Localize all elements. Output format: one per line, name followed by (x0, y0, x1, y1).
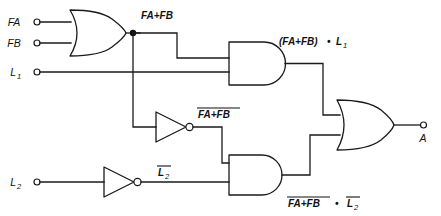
signal-label-or1-out: FA+FB (141, 10, 173, 21)
signal-label-and2-dot: • (335, 198, 339, 209)
input-label-l2: L (10, 176, 16, 188)
input-label-l1-subscript: 1 (17, 72, 21, 81)
or-gate-1[interactable] (70, 10, 126, 56)
signal-label-and1-subscript: 1 (343, 41, 347, 50)
and-gate-1[interactable] (229, 42, 286, 85)
wire-and2-to-or2 (282, 135, 340, 175)
or-gate-2[interactable] (337, 100, 394, 150)
signal-label-and1-out: (FA+FB) • L 1 (279, 36, 347, 50)
signal-label-and2-out: FA+FB • L 2 (287, 197, 360, 212)
input-label-fb: FB (7, 37, 20, 49)
wire-not1-to-and2 (193, 127, 229, 163)
input-terminal-l1[interactable] (34, 69, 40, 75)
and-gate-2[interactable] (229, 155, 282, 195)
input-label-l1: L (10, 66, 16, 78)
wire-and1-to-or2 (285, 64, 340, 116)
signal-label-and1-prefix: (FA+FB) (279, 36, 318, 47)
signal-label-and2-first: FA+FB (288, 198, 320, 209)
input-label-fa: FA (8, 16, 21, 28)
input-terminal-l2[interactable] (34, 179, 40, 185)
signal-label-and1-dot: • (327, 36, 331, 47)
signal-label-not2-subscript: 2 (164, 172, 170, 181)
signal-label-not1-text: FA+FB (198, 109, 230, 120)
input-label-l2-subscript: 2 (16, 182, 22, 191)
output-label-a: A (418, 132, 426, 144)
not-gate-1[interactable] (156, 112, 193, 142)
input-terminal-fb[interactable] (34, 40, 40, 46)
output-terminal-a[interactable] (421, 122, 427, 128)
wire-or1-to-and1 (133, 33, 229, 58)
not-gate-2-bubble (134, 178, 141, 185)
signal-label-and2-second-subscript: 2 (353, 203, 359, 212)
not-gate-1-bubble (186, 123, 193, 130)
signal-label-not2-out: L 2 (157, 166, 171, 181)
input-terminal-fa[interactable] (34, 19, 40, 25)
signal-label-not2-text: L (158, 167, 164, 178)
not-gate-2[interactable] (104, 167, 141, 197)
signal-label-and2-second: L (347, 198, 353, 209)
signal-label-not1-out: FA+FB (197, 108, 240, 120)
logic-circuit-diagram: FA FB L 1 L 2 FA+FB (FA+FB) (0, 0, 441, 216)
wire-or1-to-not1 (133, 33, 156, 127)
circuit-canvas: FA FB L 1 L 2 FA+FB (FA+FB) (0, 0, 441, 216)
signal-label-and1-suffix: L (336, 36, 342, 47)
